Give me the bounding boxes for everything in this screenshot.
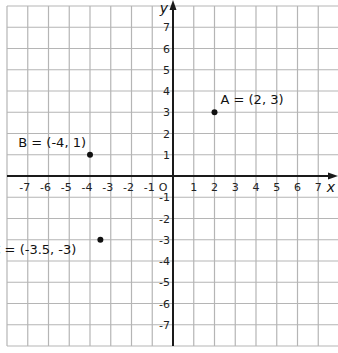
- x-tick-label: 2: [211, 181, 218, 194]
- x-tick-label: 3: [232, 181, 239, 194]
- y-tick-label: 1: [163, 149, 170, 162]
- y-tick-label: 3: [163, 106, 170, 119]
- y-tick-label: -3: [159, 234, 170, 247]
- y-tick-label: 5: [163, 64, 170, 77]
- y-tick-label: -2: [159, 213, 170, 226]
- x-tick-label: -2: [123, 181, 134, 194]
- data-points: A = (2, 3)B = (-4, 1)C = (-3.5, -3): [0, 92, 284, 257]
- y-tick-label: -5: [159, 276, 170, 289]
- x-tick-label: -7: [19, 181, 30, 194]
- point-b: [87, 152, 93, 158]
- x-tick-label: -3: [102, 181, 113, 194]
- y-axis-label: y: [159, 0, 169, 16]
- y-axis-arrow-icon: [170, 0, 177, 10]
- y-tick-label: -4: [159, 255, 170, 268]
- x-tick-label: -1: [144, 181, 155, 194]
- x-tick-label: 7: [315, 181, 322, 194]
- origin-label: O: [159, 181, 168, 194]
- y-tick-label: 2: [163, 128, 170, 141]
- x-tick-label: 5: [273, 181, 280, 194]
- x-axis-label: x: [326, 179, 336, 195]
- point-label-a: A = (2, 3): [221, 92, 284, 107]
- x-tick-label: 1: [190, 181, 197, 194]
- x-tick-label: 4: [253, 181, 260, 194]
- x-tick-label: -6: [40, 181, 51, 194]
- x-tick-label: 6: [294, 181, 301, 194]
- point-label-c: C = (-3.5, -3): [0, 242, 76, 257]
- x-tick-label: -4: [82, 181, 93, 194]
- coordinate-plane: xy -7-6-5-4-3-2-112345677654321-1-2-3-4-…: [0, 0, 338, 353]
- point-label-b: B = (-4, 1): [18, 135, 86, 150]
- y-tick-label: 6: [163, 43, 170, 56]
- axes: xy: [7, 0, 338, 346]
- y-tick-label: -7: [159, 319, 170, 332]
- point-c: [97, 237, 103, 243]
- y-tick-label: 4: [163, 85, 170, 98]
- point-a: [212, 109, 218, 115]
- y-tick-label: -6: [159, 298, 170, 311]
- x-tick-label: -5: [61, 181, 72, 194]
- y-tick-label: 7: [163, 21, 170, 34]
